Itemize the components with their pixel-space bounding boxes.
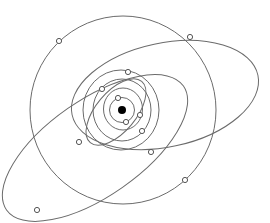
planet-icon [148,149,153,154]
planet-icon [123,119,128,124]
sun-icon [118,106,126,114]
planet-icon [56,38,61,43]
planet-icon [115,95,120,100]
planet-icon [187,34,192,39]
planet-icon [125,69,130,74]
planet-icon [76,139,81,144]
planet-icon [182,177,187,182]
orbits-group [0,16,269,223]
planet-icon [34,207,39,212]
planet-icon [99,86,104,91]
orbit-diagram [0,0,270,223]
planet-icon [137,112,142,117]
orbit-8 [75,69,157,156]
planets-group [34,34,192,212]
planet-icon [139,128,144,133]
